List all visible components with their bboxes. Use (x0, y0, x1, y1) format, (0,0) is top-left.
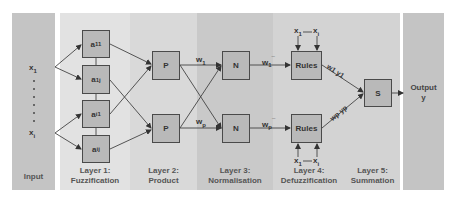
output-label: Output y (403, 83, 444, 103)
input-xi-label: xi (29, 128, 35, 141)
rules-node-1: Rules (291, 51, 322, 80)
fuzzification-node-a11: a11 (82, 30, 110, 58)
product-node-1: P (152, 51, 180, 80)
rules-node-2: Rules (291, 114, 322, 143)
rule-input-xi-top: xi (313, 26, 319, 39)
ellipsis-dot (33, 112, 35, 114)
normalised-weight-wp-label: wp¯ (262, 117, 275, 132)
product-node-2: P (152, 114, 180, 143)
normalised-weight-w1-label: w1¯ (262, 55, 275, 70)
weight-w1-label: w1 (196, 55, 206, 68)
weight-wp-label: wp (196, 117, 206, 130)
fuzzification-node-ai1: ai1 (82, 100, 110, 128)
fuzzification-node-aij: aij (82, 135, 110, 163)
normalisation-node-1: N (222, 51, 250, 80)
rule-input-x1-top: x1 (294, 26, 302, 39)
output-title: Output (403, 83, 444, 93)
output-variable: y (403, 93, 444, 103)
fuzzification-node-a1j: a1j (82, 65, 110, 94)
normalisation-node-2: N (222, 114, 250, 143)
summation-node: S (364, 79, 392, 107)
ellipsis-dot (33, 104, 35, 106)
ellipsis-dot (33, 80, 35, 82)
rule-input-xi-bottom: xi (313, 156, 319, 169)
ellipsis-dot (33, 120, 35, 122)
input-x1-label: x1 (29, 63, 37, 76)
ellipsis-dot (33, 96, 35, 98)
ellipsis-dot (33, 88, 35, 90)
rule-input-x1-bottom: x1 (294, 156, 302, 169)
